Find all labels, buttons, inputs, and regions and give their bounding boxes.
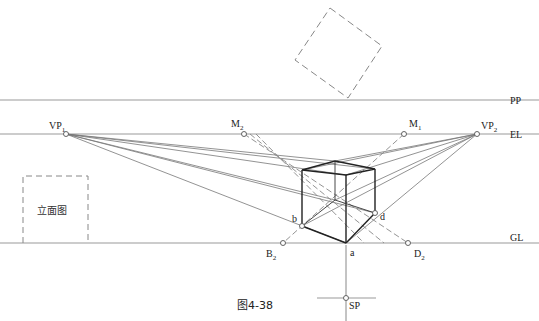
perspective-diagram: PP EL GL VP1 VP2 M2 M1 B2 D2 b d a SP 立面… <box>0 0 539 321</box>
vp1-label: VP1 <box>49 120 66 134</box>
el-label: EL <box>510 129 522 140</box>
vp1-rays <box>66 134 375 243</box>
pp-label: PP <box>510 95 522 106</box>
b2-label: B2 <box>266 248 277 262</box>
vp2-marker <box>475 132 480 137</box>
plan-square <box>295 8 382 98</box>
vp2-label: VP2 <box>481 120 498 134</box>
sp-label: SP <box>349 300 361 311</box>
d-label: d <box>380 211 385 222</box>
b2-marker <box>281 241 286 246</box>
cube <box>302 161 375 243</box>
sp-marker <box>344 296 349 301</box>
measuring-lines <box>244 134 408 243</box>
gl-label: GL <box>510 232 523 243</box>
m2-label: M2 <box>231 118 244 132</box>
elevation-label: 立面图 <box>37 204 67 216</box>
figure-caption: 图4-38 <box>237 299 273 312</box>
b-label: b <box>292 213 297 224</box>
b-marker <box>300 224 305 229</box>
m2-marker <box>242 132 247 137</box>
m1-marker <box>402 132 407 137</box>
d2-label: D2 <box>414 248 425 262</box>
vp2-rays <box>302 134 477 243</box>
d2-marker <box>406 241 411 246</box>
d-marker <box>373 211 378 216</box>
a-label: a <box>350 247 355 258</box>
point-markers <box>64 132 480 301</box>
m1-label: M1 <box>409 118 422 132</box>
